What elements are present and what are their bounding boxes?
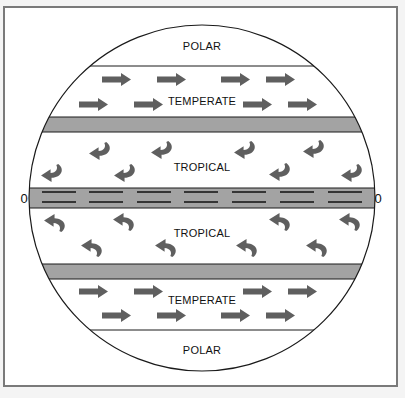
east-arrow-icon xyxy=(79,285,108,298)
curved-arrow-northwest-icon xyxy=(269,213,290,231)
equator-label-right: 0 xyxy=(374,191,381,206)
east-arrow-icon xyxy=(266,309,295,322)
east-arrow-icon xyxy=(157,73,186,86)
east-arrow-icon xyxy=(288,98,317,111)
curved-arrow-southwest-icon xyxy=(269,163,290,181)
equator-label-left: 0 xyxy=(20,191,27,206)
label-north-tropical: TROPICAL xyxy=(174,161,231,173)
curved-arrow-southwest-icon xyxy=(303,140,324,158)
curved-arrow-northwest-icon xyxy=(339,213,360,231)
curved-arrow-northwest-icon xyxy=(236,239,257,257)
curved-arrow-northwest-icon xyxy=(155,239,176,257)
east-arrow-icon xyxy=(221,73,250,86)
label-south-polar: POLAR xyxy=(183,344,221,356)
north-boundary-band xyxy=(0,117,405,132)
curved-arrow-southwest-icon xyxy=(151,141,172,159)
curved-arrow-northwest-icon xyxy=(44,214,65,232)
east-arrow-icon xyxy=(102,309,131,322)
east-arrow-icon xyxy=(266,73,295,86)
curved-arrow-southwest-icon xyxy=(89,142,110,160)
curved-arrow-northwest-icon xyxy=(81,239,102,257)
south-boundary-band xyxy=(0,264,405,279)
east-arrow-icon xyxy=(157,309,186,322)
curved-arrow-southwest-icon xyxy=(41,164,62,182)
curved-arrow-northwest-icon xyxy=(113,213,134,231)
east-arrow-icon xyxy=(221,309,250,322)
curved-arrow-southwest-icon xyxy=(114,164,135,182)
east-arrow-icon xyxy=(134,98,163,111)
planet-circulation-diagram xyxy=(0,0,405,398)
label-south-tropical: TROPICAL xyxy=(174,227,231,239)
curved-arrow-southwest-icon xyxy=(341,164,362,182)
label-north-polar: POLAR xyxy=(183,40,221,52)
curved-arrow-northwest-icon xyxy=(306,239,327,257)
equator-band xyxy=(0,188,405,208)
east-arrow-icon xyxy=(288,285,317,298)
label-south-temperate: TEMPERATE xyxy=(168,294,236,306)
east-arrow-icon xyxy=(134,285,163,298)
label-north-temperate: TEMPERATE xyxy=(168,95,236,107)
east-arrow-icon xyxy=(79,98,108,111)
east-arrow-icon xyxy=(243,98,272,111)
curved-arrow-southwest-icon xyxy=(234,141,255,159)
east-arrow-icon xyxy=(243,285,272,298)
east-arrow-icon xyxy=(102,73,131,86)
